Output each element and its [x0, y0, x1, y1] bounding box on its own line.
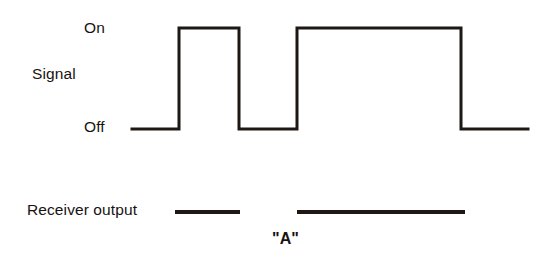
row-label-receiver-output: Receiver output [27, 202, 137, 218]
axis-label-off: Off [84, 119, 105, 135]
waveform-canvas [0, 0, 539, 275]
axis-label-on: On [84, 20, 105, 36]
signal-timing-diagram: On Signal Off Receiver output "A" [0, 0, 539, 275]
annotation-decoded-character: "A" [272, 231, 299, 247]
axis-title-signal: Signal [32, 66, 76, 82]
signal-waveform-trace [132, 28, 528, 129]
